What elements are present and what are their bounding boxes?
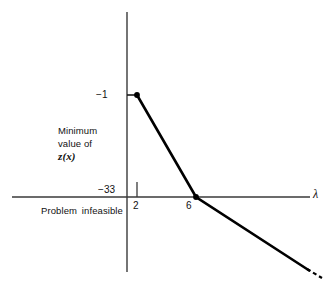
y-tick-label-neg1: −1 <box>96 89 108 101</box>
y-tick-label-neg33: −33 <box>98 184 115 196</box>
y-axis-title: Minimum value of z(x) <box>58 124 97 163</box>
infeasible-region-note: Problem infeasible <box>41 205 123 217</box>
x-tick-label-2: 2 <box>133 200 139 212</box>
marker-point-lambda-6 <box>193 194 199 200</box>
x-tick-label-6: 6 <box>186 200 192 212</box>
y-axis-title-line-3: z(x) <box>58 150 97 163</box>
x-axis-symbol-lambda: λ <box>313 188 318 200</box>
figure-container: −1 −33 2 6 Minimum value of z(x) Problem… <box>0 0 327 282</box>
curve-dashed-tail <box>307 269 322 278</box>
dual-function-curve <box>137 95 310 271</box>
marker-point-lambda-2 <box>134 92 140 98</box>
y-axis-title-line-1: Minimum <box>58 124 97 137</box>
y-axis-title-line-2: value of <box>58 137 97 150</box>
plot-svg <box>0 0 327 282</box>
